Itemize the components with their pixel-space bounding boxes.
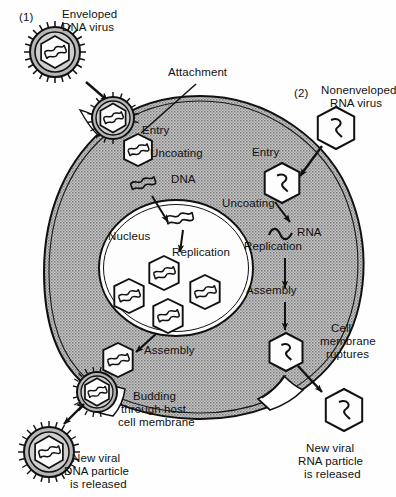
budding-label-line2: through host — [121, 403, 186, 416]
entry-label-rna: Entry — [252, 146, 279, 159]
released-dna-label-line1: New viral — [72, 452, 120, 465]
budding-label-line1: Budding — [133, 390, 176, 403]
released-rna-label-line1: New viral — [306, 442, 354, 455]
uncoating-capsid-icon — [124, 134, 152, 166]
uncoating-label-dna: Uncoating — [150, 147, 203, 160]
naked-capsid-icon — [318, 107, 354, 149]
progeny-capsid-icon — [114, 279, 143, 313]
replication-label-rna: Replication — [244, 240, 302, 253]
released-rna-particle-icon — [326, 389, 362, 431]
pathway-one-marker: (1) — [19, 11, 33, 24]
rupture-label-line1: Cell — [331, 322, 351, 335]
rupture-label-line2: membrane — [320, 335, 376, 348]
budding-label-line3: cell membrane — [118, 416, 195, 429]
released-dna-label-line2: DNA particle — [64, 465, 129, 478]
released-rna-label-line2: RNA particle — [298, 455, 363, 468]
viral-replication-diagram: (1) Enveloped DNA virus Attachment Entry… — [0, 0, 396, 497]
pathway-two-marker: (2) — [294, 87, 308, 100]
progeny-capsid-icon — [149, 256, 178, 290]
progeny-capsid-icon — [190, 275, 219, 309]
assembly-label-rna: Assembly — [246, 284, 297, 297]
entry-label-dna: Entry — [142, 124, 169, 137]
rna-label: RNA — [297, 226, 322, 239]
replication-label-dna: Replication — [172, 246, 230, 259]
assembly-label-dna: Assembly — [144, 344, 195, 357]
dna-label: DNA — [171, 173, 196, 186]
pathway-two-title-line1: Nonenveloped — [321, 84, 396, 97]
progeny-rna-capsid-icon — [270, 333, 303, 371]
released-rna-label-line3: is released — [304, 468, 361, 481]
attachment-label: Attachment — [168, 66, 227, 79]
released-dna-label-line3: is released — [70, 478, 127, 491]
arrow-icon — [64, 404, 84, 424]
uncoating-label-rna: Uncoating — [222, 197, 275, 210]
pathway-one-title-line2: DNA virus — [62, 21, 114, 34]
pathway-two-title-line2: RNA virus — [330, 97, 382, 110]
progeny-capsid-icon — [153, 299, 182, 333]
assembly-capsid-icon — [103, 343, 132, 377]
rupture-label-line3: ruptures — [326, 348, 369, 361]
pathway-one-title-line1: Enveloped — [62, 8, 117, 21]
nucleus-label: Nucleus — [108, 230, 150, 243]
